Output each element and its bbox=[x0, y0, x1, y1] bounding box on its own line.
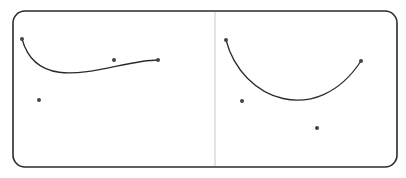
diagram-canvas bbox=[0, 0, 406, 178]
left-curve-start-point[interactable] bbox=[20, 37, 24, 41]
right-curve-control1-point[interactable] bbox=[240, 99, 244, 103]
left-curve-control2-point[interactable] bbox=[112, 58, 116, 62]
frame-border bbox=[13, 11, 397, 167]
left-curve-control1-point[interactable] bbox=[37, 98, 41, 102]
curves-group bbox=[20, 37, 363, 130]
right-curve-control2-point[interactable] bbox=[315, 126, 319, 130]
right-curve bbox=[226, 40, 361, 100]
left-curve bbox=[22, 39, 158, 73]
left-curve-end-point[interactable] bbox=[156, 58, 160, 62]
right-curve-end-point[interactable] bbox=[359, 59, 363, 63]
right-curve-start-point[interactable] bbox=[224, 38, 228, 42]
